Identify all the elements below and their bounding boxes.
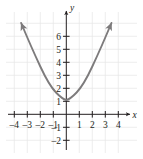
x-tick-label--3: –3 <box>22 120 33 130</box>
y-axis-label: y <box>69 3 75 13</box>
x-tick-label--2: –2 <box>35 120 46 130</box>
graph-figure: –4 –3 –2 –1 1 2 3 4 –2 –1 1 2 3 4 5 6 x … <box>0 0 143 159</box>
x-tick-label-4: 4 <box>116 120 121 130</box>
x-tick-label-2: 2 <box>90 120 95 130</box>
x-tick-label-1: 1 <box>77 120 82 130</box>
y-tick-label--1: –1 <box>51 123 62 133</box>
x-tick-label-3: 3 <box>103 120 108 130</box>
y-tick-label-4: 4 <box>56 58 61 68</box>
x-tick-label--4: –4 <box>9 120 20 130</box>
y-tick-label--2: –2 <box>51 136 62 146</box>
cartesian-plot: –4 –3 –2 –1 1 2 3 4 –2 –1 1 2 3 4 5 6 x … <box>0 0 143 159</box>
y-tick-label-6: 6 <box>56 32 61 42</box>
y-tick-label-2: 2 <box>56 84 61 94</box>
y-tick-label-5: 5 <box>56 45 61 55</box>
y-tick-label-3: 3 <box>56 71 61 81</box>
y-tick-label-1: 1 <box>56 97 61 107</box>
x-axis-label: x <box>131 110 137 120</box>
